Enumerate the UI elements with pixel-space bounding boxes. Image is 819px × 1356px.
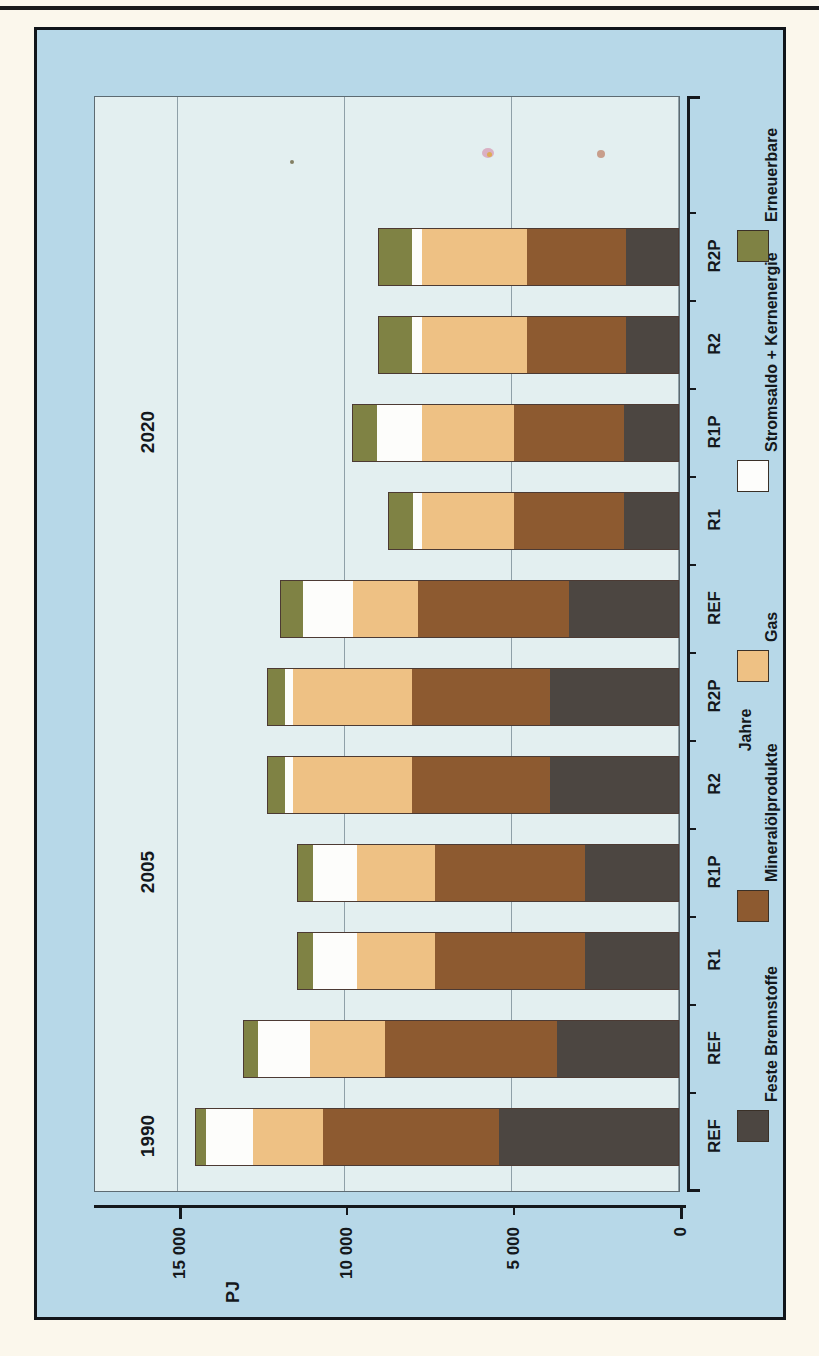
category-label-r2: R2 (705, 773, 725, 795)
bar-segment-gas (422, 492, 514, 550)
year-group-label-2005: 2005 (137, 851, 159, 893)
bar-segment-stromsaldo-kernenergie (412, 316, 422, 374)
bar-segment-stromsaldo-kernenergie (313, 844, 356, 902)
bar-segment-stromsaldo-kernenergie (313, 932, 356, 990)
bar-segment-feste-brennstoffe (624, 492, 679, 550)
category-label-ref: REF (705, 1119, 725, 1153)
bar-segment-gas (357, 844, 435, 902)
bar-r2-4[interactable] (267, 756, 679, 814)
bar-segment-mineral-lprodukte (514, 404, 624, 462)
year-group-label-2020: 2020 (137, 411, 159, 453)
bar-segment-erneuerbare (297, 932, 314, 990)
bar-segment-feste-brennstoffe (569, 580, 679, 638)
bar-segment-mineral-lprodukte (323, 1108, 498, 1166)
value-tick-label: 10 000 (337, 1227, 357, 1279)
bar-segment-erneuerbare (267, 668, 285, 726)
bar-r1p-8[interactable] (352, 404, 679, 462)
scan-blemish (597, 150, 605, 158)
bar-segment-feste-brennstoffe (550, 668, 679, 726)
legend-label: Gas (763, 612, 781, 642)
category-tick (687, 476, 696, 478)
bar-segment-gas (293, 756, 412, 814)
category-tick (687, 916, 696, 918)
value-axis-title: PJ (223, 1281, 244, 1303)
category-tick (687, 1004, 696, 1006)
bar-r2-9[interactable] (378, 316, 679, 374)
category-axis-spine (687, 96, 690, 1192)
bar-segment-erneuerbare (352, 404, 377, 462)
category-label-ref: REF (705, 1031, 725, 1065)
category-axis-title: Jahre (737, 709, 755, 752)
bar-segment-mineral-lprodukte (514, 492, 624, 550)
bar-r2p-10[interactable] (378, 228, 679, 286)
value-tick (680, 1205, 683, 1219)
legend-swatch (737, 890, 769, 922)
bar-segment-gas (253, 1108, 323, 1166)
bar-segment-feste-brennstoffe (585, 844, 679, 902)
value-tick (346, 1205, 348, 1215)
bar-segment-erneuerbare (378, 316, 411, 374)
bar-segment-stromsaldo-kernenergie (258, 1020, 310, 1078)
bar-segment-erneuerbare (297, 844, 314, 902)
scanned-page: REFREFR1R1PR2R2PREFR1R1PR2R2P 15 00010 0… (0, 0, 819, 1356)
bar-segment-feste-brennstoffe (626, 316, 679, 374)
category-label-r1p: R1P (705, 415, 725, 448)
bar-segment-mineral-lprodukte (527, 316, 626, 374)
bar-segment-gas (422, 404, 514, 462)
category-tick (687, 828, 696, 830)
bar-segment-mineral-lprodukte (435, 932, 585, 990)
bar-ref-0[interactable] (195, 1108, 679, 1166)
bar-r2p-5[interactable] (267, 668, 679, 726)
bar-segment-erneuerbare (280, 580, 303, 638)
bar-segment-erneuerbare (243, 1020, 258, 1078)
category-axis-cap (687, 96, 700, 99)
bar-segment-feste-brennstoffe (626, 228, 679, 286)
bar-segment-erneuerbare (378, 228, 411, 286)
bar-ref-1[interactable] (243, 1020, 679, 1078)
category-axis-cap (687, 1189, 700, 1192)
bar-r1p-3[interactable] (297, 844, 679, 902)
legend-label: Stromsaldo + Kernenergie (763, 252, 781, 452)
category-tick (687, 564, 696, 566)
scan-blemish (290, 160, 294, 164)
bar-segment-mineral-lprodukte (527, 228, 626, 286)
bar-r1-7[interactable] (388, 492, 679, 550)
legend-swatch (737, 650, 769, 682)
value-axis-spine (94, 1205, 686, 1208)
bar-r1-2[interactable] (297, 932, 679, 990)
value-tick (179, 1205, 182, 1219)
category-label-r1: R1 (705, 509, 725, 531)
category-label-r2p: R2P (705, 239, 725, 272)
bar-segment-gas (357, 932, 435, 990)
bar-segment-erneuerbare (267, 756, 285, 814)
bar-segment-feste-brennstoffe (585, 932, 679, 990)
category-label-ref: REF (705, 591, 725, 625)
value-tick-label: 0 (671, 1227, 691, 1236)
legend-label: Feste Brennstoffe (763, 966, 781, 1102)
year-group-label-1990: 1990 (137, 1115, 159, 1157)
category-label-r1p: R1P (705, 855, 725, 888)
category-tick (687, 740, 696, 742)
legend-swatch (737, 230, 769, 262)
bar-ref-6[interactable] (280, 580, 679, 638)
bar-segment-stromsaldo-kernenergie (412, 228, 422, 286)
value-tick (513, 1205, 515, 1215)
bar-segment-stromsaldo-kernenergie (285, 756, 293, 814)
bar-segment-erneuerbare (195, 1108, 207, 1166)
category-tick (687, 212, 696, 214)
category-tick (687, 388, 696, 390)
bar-segment-mineral-lprodukte (412, 668, 551, 726)
gridline (177, 97, 178, 1191)
chart-figure: REFREFR1R1PR2R2PREFR1R1PR2R2P 15 00010 0… (34, 27, 786, 1320)
bar-segment-mineral-lprodukte (385, 1020, 557, 1078)
bar-segment-feste-brennstoffe (624, 404, 679, 462)
bar-segment-stromsaldo-kernenergie (285, 668, 293, 726)
bar-segment-gas (422, 228, 527, 286)
bar-segment-stromsaldo-kernenergie (413, 492, 421, 550)
bar-segment-feste-brennstoffe (499, 1108, 679, 1166)
bar-segment-gas (353, 580, 418, 638)
category-tick (687, 300, 696, 302)
plot-area (94, 96, 680, 1192)
legend-label: Erneuerbare (763, 128, 781, 222)
bar-segment-stromsaldo-kernenergie (377, 404, 422, 462)
